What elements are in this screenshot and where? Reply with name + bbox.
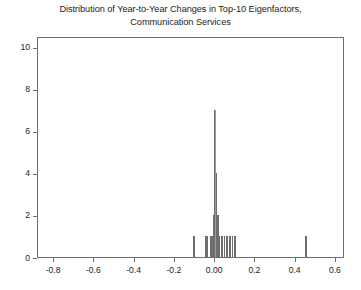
y-axis-tick — [33, 216, 37, 217]
histogram-bar — [232, 236, 234, 257]
histogram-bar — [218, 236, 220, 257]
x-axis-tick — [214, 258, 215, 262]
x-axis-tick — [134, 258, 135, 262]
x-axis-tick-label: -0.4 — [114, 265, 154, 275]
x-axis-tick-label: -0.6 — [73, 265, 113, 275]
y-axis-tick — [33, 132, 37, 133]
x-axis-tick-label: -0.2 — [154, 265, 194, 275]
x-axis-tick-label: -0.8 — [33, 265, 73, 275]
x-axis-tick-label: 0.00 — [194, 265, 234, 275]
x-axis-tick-label: 0.6 — [315, 265, 355, 275]
bars-container — [38, 38, 343, 257]
histogram-figure: Distribution of Year-to-Year Changes in … — [0, 0, 361, 290]
histogram-bar — [206, 236, 208, 257]
y-axis-tick-label: 8 — [2, 84, 30, 94]
histogram-bar — [224, 236, 226, 257]
y-axis-tick — [33, 258, 37, 259]
histogram-bar — [221, 236, 223, 257]
y-axis-tick — [33, 90, 37, 91]
chart-title-line-1: Distribution of Year-to-Year Changes in … — [0, 3, 361, 16]
histogram-bar — [193, 236, 195, 257]
y-axis-tick-label: 0 — [2, 253, 30, 263]
x-axis-tick — [53, 258, 54, 262]
x-axis-tick — [295, 258, 296, 262]
histogram-bar — [226, 236, 228, 257]
y-axis-tick-label: 4 — [2, 168, 30, 178]
y-axis-tick-label: 10 — [2, 42, 30, 52]
x-axis-tick-label: 0.2 — [234, 265, 274, 275]
x-axis-tick — [174, 258, 175, 262]
y-axis-tick-label: 2 — [2, 210, 30, 220]
chart-title: Distribution of Year-to-Year Changes in … — [0, 3, 361, 28]
y-axis-tick — [33, 48, 37, 49]
y-axis-tick — [33, 174, 37, 175]
x-axis-tick — [335, 258, 336, 262]
x-axis-tick-label: 0.4 — [275, 265, 315, 275]
histogram-bar — [234, 236, 236, 257]
y-axis-tick-label: 6 — [2, 126, 30, 136]
chart-title-line-2: Communication Services — [0, 16, 361, 29]
histogram-bar — [229, 236, 231, 257]
x-axis-tick — [93, 258, 94, 262]
histogram-bar — [305, 236, 307, 257]
x-axis-tick — [254, 258, 255, 262]
histogram-bar-peak-tail — [215, 110, 216, 257]
plot-area — [37, 37, 344, 258]
